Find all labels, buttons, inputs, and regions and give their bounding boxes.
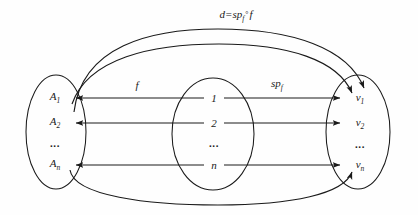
edge-label-spf-base: sp <box>271 77 281 89</box>
composite-lhs: d= <box>219 8 232 20</box>
left-set-item-1: A1 <box>50 91 60 105</box>
left-set-item-n: An <box>50 158 60 172</box>
middle-set-item-2-base: 2 <box>211 117 217 129</box>
middle-set-item-n-base: n <box>211 159 217 171</box>
diagram-canvas: d=spf°f f spf A1 A2 ... An 1 2 ... n v1 … <box>0 0 418 215</box>
edge-label-f-text: f <box>135 79 138 91</box>
edge-label-spf-subscript: f <box>281 83 283 92</box>
middle-set-item-1: 1 <box>211 93 217 104</box>
right-set-item-1: v1 <box>356 92 365 106</box>
left-set-item-2: A2 <box>50 116 60 130</box>
arc-d-outer <box>74 29 364 112</box>
edge-label-spf: spf <box>271 78 283 92</box>
left-set-ellipsis: ... <box>50 137 60 149</box>
right-set-item-2: v2 <box>356 117 365 131</box>
right-set-ellipsis: ... <box>355 138 365 150</box>
right-set-item-1-sub: 1 <box>361 97 365 106</box>
middle-set-item-1-base: 1 <box>211 92 217 104</box>
diagram-vector-layer <box>0 0 418 215</box>
left-set-item-n-sub: n <box>56 163 60 172</box>
right-set-item-n-sub: n <box>361 164 365 173</box>
arc-d-bottom <box>70 170 352 205</box>
composite-rhs: f <box>249 8 252 20</box>
composite-map-name: sp <box>232 8 242 20</box>
left-set-item-2-sub: 2 <box>56 121 60 130</box>
middle-set-item-n: n <box>211 160 217 171</box>
middle-set-item-2: 2 <box>211 118 217 129</box>
right-set-item-n: vn <box>356 159 365 173</box>
left-set-item-n-base: A <box>50 157 57 169</box>
left-set-item-1-base: A <box>50 90 57 102</box>
right-set-item-2-sub: 2 <box>361 122 365 131</box>
left-set-item-1-sub: 1 <box>56 96 60 105</box>
left-set-item-2-base: A <box>50 115 57 127</box>
middle-set-ellipsis: ... <box>209 137 219 149</box>
edge-label-f: f <box>135 80 138 91</box>
composite-map-label: d=spf°f <box>219 9 252 23</box>
